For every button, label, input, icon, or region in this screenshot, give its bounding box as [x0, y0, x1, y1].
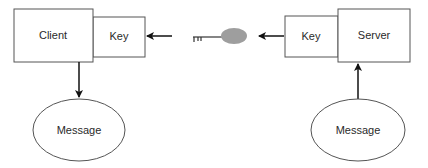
server-message-label: Message — [336, 124, 381, 136]
server-key-node: Key — [285, 16, 338, 57]
client-node: Client — [14, 9, 93, 62]
server-key-label: Key — [302, 30, 321, 42]
client-label: Client — [39, 29, 67, 41]
client-message-node: Message — [33, 99, 125, 161]
server-node: Server — [338, 9, 410, 62]
client-key-node: Key — [93, 17, 145, 57]
server-label: Server — [358, 29, 391, 41]
client-message-label: Message — [57, 124, 102, 136]
diagram-canvas: Key Client Key Server Message Message — [0, 0, 428, 168]
key-icon — [193, 28, 247, 44]
server-message-node: Message — [311, 99, 405, 161]
client-key-label: Key — [110, 30, 129, 42]
